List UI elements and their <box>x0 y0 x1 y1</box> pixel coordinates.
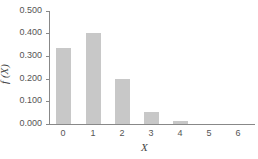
y-tick-mark <box>46 11 50 12</box>
y-tick-mark <box>46 56 50 57</box>
x-tick-label: 1 <box>86 128 100 138</box>
y-tick-label: 0.400 <box>4 27 42 37</box>
x-tick-label: 3 <box>144 128 158 138</box>
y-tick-mark <box>46 79 50 80</box>
bar-x-4 <box>173 121 188 124</box>
y-tick-mark <box>46 33 50 34</box>
y-tick-label: 0.500 <box>4 5 42 15</box>
y-tick-mark <box>46 124 50 125</box>
bar-x-0 <box>56 48 71 124</box>
probability-bar-chart: 0.000 0.100 0.200 0.300 0.400 0.500 0 1 … <box>0 0 258 159</box>
y-tick-mark <box>46 101 50 102</box>
bar-x-2 <box>115 79 130 124</box>
y-axis-line <box>49 11 50 125</box>
x-axis-line <box>49 124 255 125</box>
y-tick-label: 0.300 <box>4 50 42 60</box>
x-tick-label: 6 <box>231 128 245 138</box>
x-tick-label: 2 <box>115 128 129 138</box>
y-tick-label: 0.000 <box>4 118 42 128</box>
x-tick-label: 0 <box>56 128 70 138</box>
y-tick-label: 0.100 <box>4 95 42 105</box>
bar-x-1 <box>86 33 101 124</box>
bar-x-3 <box>144 112 159 124</box>
x-axis-title: X <box>141 141 148 153</box>
y-axis-title: f (X) <box>0 64 10 84</box>
x-tick-label: 5 <box>202 128 216 138</box>
x-tick-label: 4 <box>173 128 187 138</box>
